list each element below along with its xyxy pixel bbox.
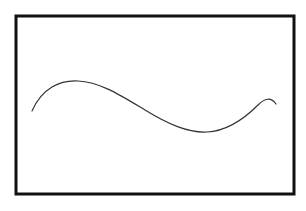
wave-curve: [32, 81, 276, 132]
figure-frame: [16, 16, 294, 194]
figure-canvas: [0, 0, 306, 211]
